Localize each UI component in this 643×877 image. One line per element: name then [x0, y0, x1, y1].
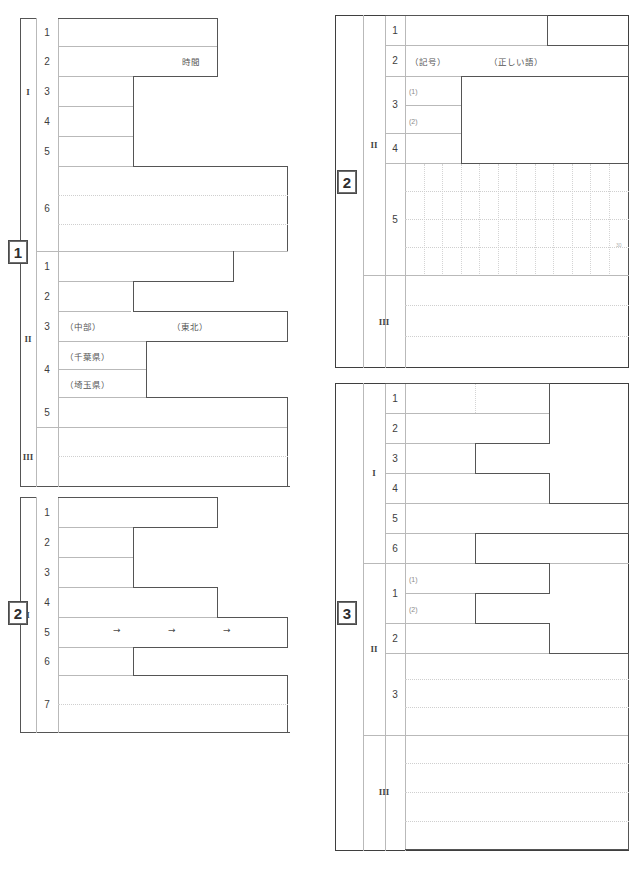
question-number-chip-2-left-label: 2 — [9, 602, 27, 624]
row-number: 6 — [36, 647, 58, 675]
answer-outline — [628, 653, 629, 849]
row-number: 3 — [36, 76, 58, 106]
section-roman-label: III — [363, 735, 405, 849]
row-sep — [58, 369, 146, 370]
row-number: 4 — [36, 587, 58, 617]
answer-outline — [475, 623, 550, 624]
answer-outline — [287, 311, 288, 341]
row-sep — [58, 557, 134, 558]
row-number: 7 — [36, 675, 58, 733]
row-number: 2 — [385, 45, 405, 76]
row-number: 2 — [385, 413, 405, 443]
row-number: 1 — [36, 251, 58, 281]
answer-outline-right — [217, 18, 218, 76]
row-number: 3 — [36, 557, 58, 587]
row-number: 1 — [385, 15, 405, 45]
grid-row — [405, 247, 629, 248]
answer-outline — [461, 163, 629, 164]
block-1-number-divider — [58, 18, 59, 487]
answer-sheet-page: 1 1 2 3 4 5 6 I 時間 1 2 3 4 5 II III — [0, 0, 643, 877]
row-number: 1 — [385, 563, 405, 623]
row-number: 2 — [36, 527, 58, 557]
writing-guide — [58, 704, 288, 705]
sub-item-label: (1) — [409, 80, 418, 102]
answer-outline — [133, 527, 218, 528]
question-number-chip-3-label: 3 — [338, 602, 356, 624]
row-number: 2 — [36, 281, 58, 311]
grid-row — [405, 219, 629, 220]
section-roman-label: III — [363, 275, 405, 368]
answer-outline-top — [58, 18, 218, 19]
answer-outline — [475, 593, 550, 594]
answer-outline — [287, 617, 288, 647]
answer-outline-top — [385, 15, 548, 16]
row-number: 3 — [36, 311, 58, 341]
question-number-chip-1: 1 — [8, 240, 28, 264]
answer-outline — [133, 281, 234, 282]
section-sep — [36, 427, 288, 428]
question-number-chip-2-right-label: 2 — [338, 171, 356, 193]
sub-item-label: (2) — [409, 110, 418, 132]
answer-outline-top — [58, 497, 218, 498]
writing-guide — [405, 707, 629, 708]
answer-outline — [133, 76, 218, 77]
row-sep — [405, 105, 462, 106]
writing-guide — [58, 456, 288, 457]
writing-guide — [405, 792, 629, 793]
cell-text-time: 時間 — [182, 48, 200, 74]
row-sep — [58, 587, 134, 588]
answer-outline — [628, 503, 629, 533]
sub-item-label: (2) — [409, 598, 418, 620]
grid-count-marker: 30 — [616, 242, 622, 248]
answer-outline — [549, 473, 550, 503]
answer-outline — [146, 341, 288, 342]
answer-outline — [549, 623, 550, 653]
cell-text-kigou: （記号） — [410, 47, 446, 74]
writing-guide — [405, 821, 629, 822]
answer-outline — [133, 587, 218, 588]
answer-outline — [146, 397, 288, 398]
row-number: 3 — [385, 653, 405, 735]
row-sep — [385, 503, 572, 504]
answer-outline — [475, 533, 476, 563]
section-roman-label: II — [20, 251, 36, 427]
cell-text-chubu: （中部） — [65, 313, 101, 339]
row-number: 2 — [36, 46, 58, 76]
cell-text-tadashii: （正しい語） — [489, 47, 543, 74]
cell-text-saitama: （埼玉県） — [65, 371, 110, 397]
row-number: 5 — [36, 617, 58, 647]
row-number: 5 — [36, 397, 58, 427]
answer-outline — [233, 251, 234, 281]
answer-outline — [549, 383, 550, 443]
answer-outline — [549, 653, 629, 654]
row-number: 5 — [385, 503, 405, 533]
row-sep — [385, 413, 550, 414]
answer-outline — [133, 281, 134, 311]
answer-outline — [547, 15, 548, 45]
answer-outline — [146, 341, 147, 397]
arrow-icon: → — [223, 625, 231, 635]
row-number: 4 — [385, 473, 405, 503]
answer-outline — [133, 527, 134, 587]
row-sep — [58, 76, 134, 77]
answer-outline — [217, 497, 218, 527]
writing-guide — [405, 336, 629, 337]
block-3-sub-divider — [405, 383, 406, 851]
answer-outline — [133, 647, 288, 648]
row-sep — [58, 341, 146, 342]
row-number: 6 — [385, 533, 405, 563]
writing-guide — [405, 679, 629, 680]
answer-outline — [287, 166, 288, 251]
row-sep — [58, 311, 131, 312]
answer-outline — [217, 617, 288, 618]
cell-text-tohoku: （東北） — [172, 313, 208, 339]
answer-outline — [461, 76, 629, 77]
section-roman-label: I — [363, 383, 385, 563]
row-sep — [58, 106, 134, 107]
question-number-chip-2-right: 2 — [337, 170, 357, 194]
row-sep — [58, 136, 134, 137]
section-roman-label: III — [20, 427, 36, 486]
grid-row — [405, 191, 629, 192]
question-number-chip-1-label: 1 — [9, 241, 27, 263]
section-roman-label: I — [20, 18, 36, 166]
